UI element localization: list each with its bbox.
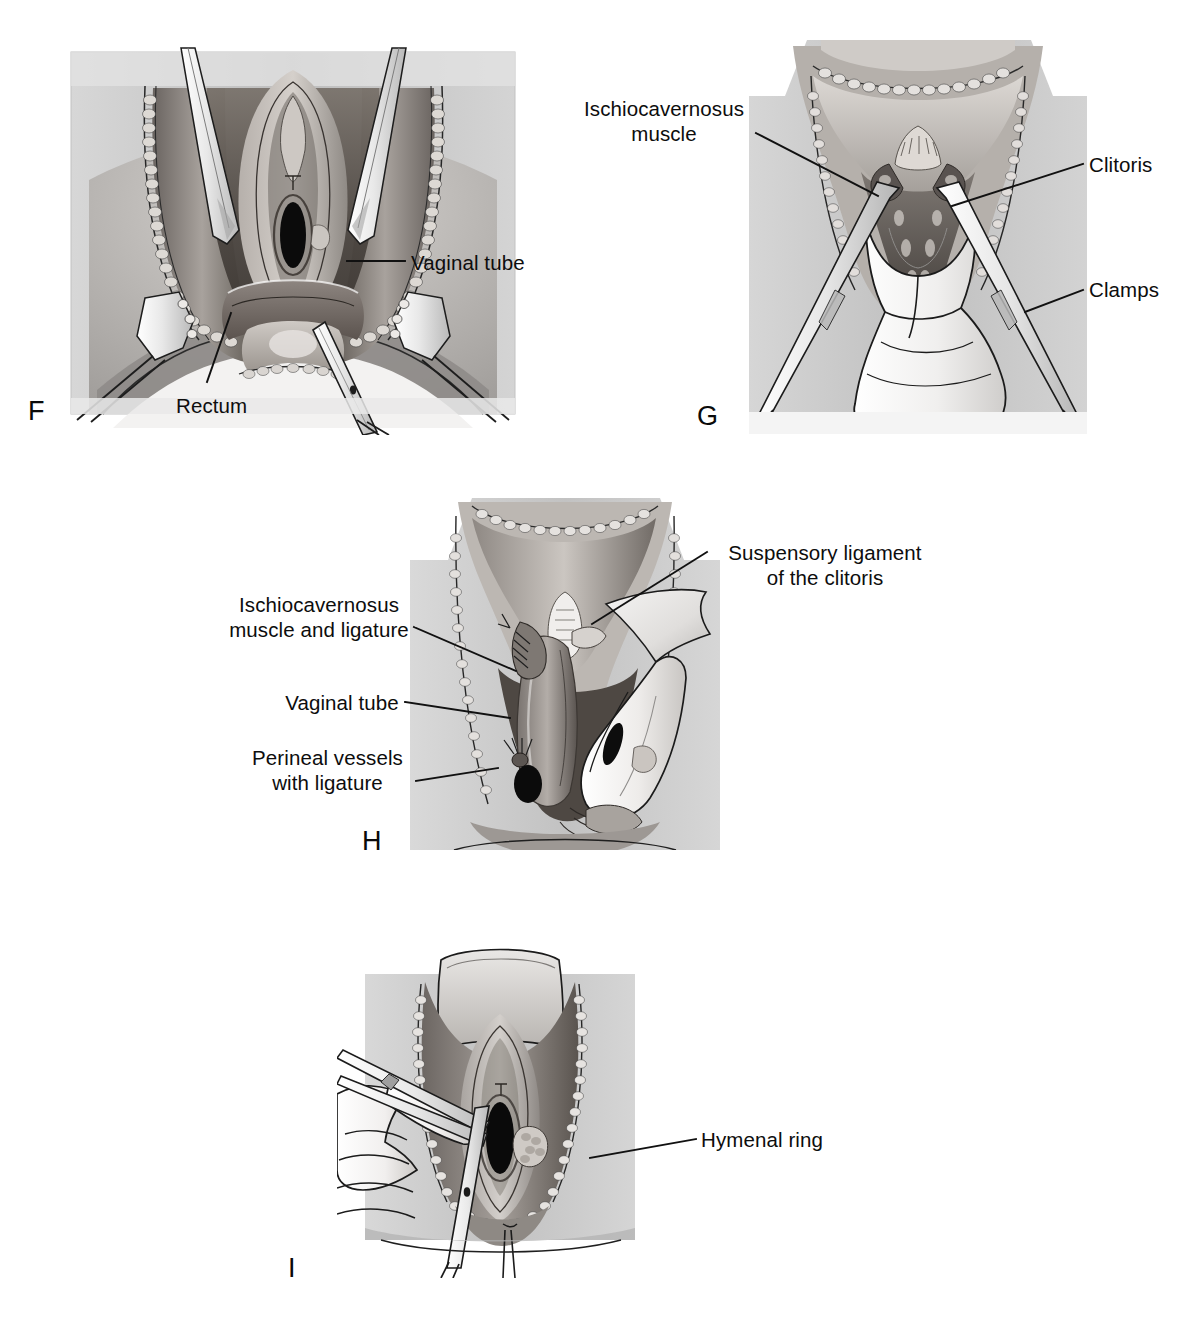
- label-suspensory-ligament-h: Suspensory ligament of the clitoris: [713, 540, 937, 590]
- label-perineal-vessels-h: Perineal vessels with ligature: [243, 745, 412, 795]
- label-ischiocavernosus-ligature-h: Ischiocavernosus muscle and ligature: [226, 592, 412, 642]
- figure-root: Vaginal tube Rectum F Ischiocavernosus m…: [0, 0, 1190, 1337]
- panel-I: [337, 938, 662, 1278]
- illustration-panel-h: [410, 492, 720, 864]
- panel-G: [749, 22, 1087, 434]
- illustration-panel-g: [749, 22, 1087, 434]
- label-hymenal-ring-i: Hymenal ring: [701, 1127, 823, 1152]
- panel-letter-i: I: [288, 1255, 296, 1282]
- label-vaginal-tube-h: Vaginal tube: [283, 690, 401, 715]
- label-clamps-g: Clamps: [1089, 277, 1159, 302]
- label-rectum-f: Rectum: [176, 393, 247, 418]
- illustration-panel-i: [337, 938, 662, 1278]
- panel-letter-g: G: [697, 403, 718, 430]
- illustration-panel-f: [57, 30, 530, 435]
- label-vaginal-tube-f: Vaginal tube: [411, 250, 525, 275]
- panel-F: [57, 30, 530, 435]
- label-ischiocavernosus-muscle-g: Ischiocavernosus muscle: [580, 96, 748, 146]
- label-clitoris-g: Clitoris: [1089, 152, 1152, 177]
- panel-H: [410, 492, 720, 864]
- panel-letter-h: H: [362, 828, 382, 855]
- panel-letter-f: F: [28, 398, 45, 425]
